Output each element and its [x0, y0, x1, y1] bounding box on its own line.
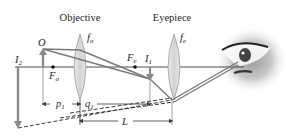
fo-label: Fo — [48, 70, 59, 83]
objective-lens — [74, 34, 86, 100]
eye-icon — [216, 26, 286, 94]
focal-point-objective — [51, 65, 55, 69]
objective-label: Objective — [60, 12, 101, 23]
L-label: L — [121, 116, 128, 127]
eyepiece-focal-label: fe — [180, 32, 186, 45]
light-rays — [43, 49, 238, 102]
object-label: O — [38, 37, 46, 48]
i1-label: I1 — [144, 53, 152, 66]
fe-label: Fe — [126, 52, 137, 65]
focal-point-eyepiece — [133, 65, 137, 69]
eyepiece-label: Eyepiece — [153, 12, 192, 23]
microscope-diagram: Objective Eyepiece O fo fe Fo Fe I1 I2 p… — [0, 0, 286, 138]
objective-focal-label: fo — [87, 32, 94, 45]
eyepiece-lens — [168, 34, 180, 100]
virtual-rays — [18, 98, 174, 128]
i2-label: I2 — [14, 54, 23, 67]
p1-label: p1 — [55, 98, 65, 111]
q1-label: q1 — [85, 98, 94, 111]
